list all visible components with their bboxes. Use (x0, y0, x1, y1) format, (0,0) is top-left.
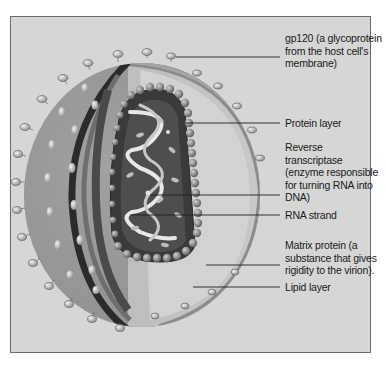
label-reverse-transcriptase: Reverse transcriptase (enzyme responsibl… (285, 141, 378, 204)
label-matrix-protein: Matrix protein (a substance that gives r… (285, 239, 377, 277)
label-line: RNA strand (285, 209, 337, 222)
label-line: gp120 (a glycoprotein (285, 32, 382, 45)
label-line: Protein layer (285, 117, 341, 130)
label-line: DNA) (285, 191, 378, 204)
label-lipid-layer: Lipid layer (285, 281, 331, 294)
label-line: rigidity to the virion). (285, 264, 377, 277)
label-line: transcriptase (285, 154, 378, 167)
label-line: Reverse (285, 141, 378, 154)
label-line: from the host cell's (285, 45, 382, 58)
label-gp120: gp120 (a glycoprotein from the host cell… (285, 32, 382, 70)
label-line: membrane) (285, 57, 382, 70)
label-line: Lipid layer (285, 281, 331, 294)
label-line: (enzyme responsible (285, 166, 378, 179)
label-protein-layer: Protein layer (285, 117, 341, 130)
label-line: Matrix protein (a (285, 239, 377, 252)
label-line: substance that gives (285, 252, 377, 265)
label-line: for turning RNA into (285, 179, 378, 192)
label-rna-strand: RNA strand (285, 209, 337, 222)
